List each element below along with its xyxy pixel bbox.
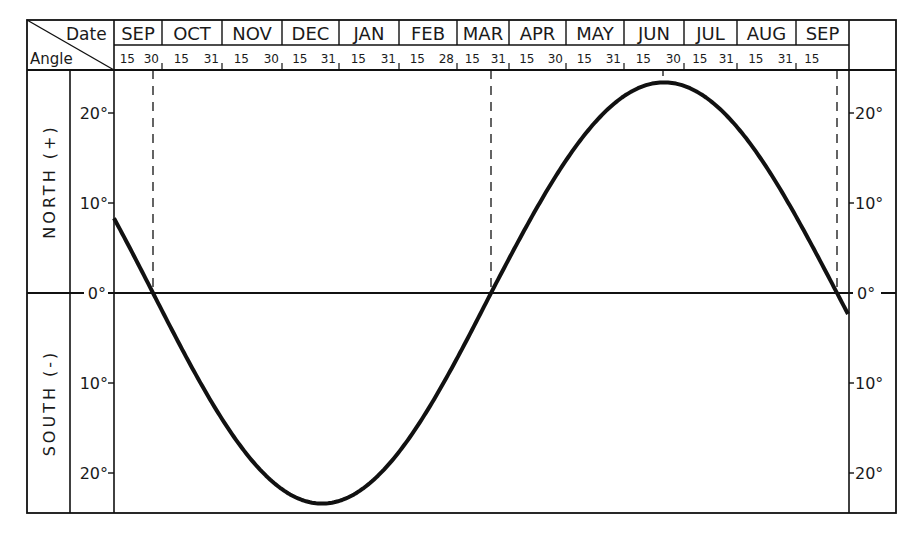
month-label: NOV <box>232 23 272 44</box>
day-tick-label: 15 <box>292 52 307 66</box>
day-tick-label: 30 <box>264 52 279 66</box>
day-tick-label: 31 <box>204 52 219 66</box>
day-tick-label: 31 <box>778 52 793 66</box>
day-tick-label: 15 <box>120 52 135 66</box>
day-tick-label: 28 <box>439 52 454 66</box>
day-tick-label: 15 <box>804 52 819 66</box>
month-label: JUL <box>695 23 725 44</box>
day-tick-label: 30 <box>144 52 159 66</box>
y-tick-label-right: 10° <box>855 194 883 213</box>
day-tick-label: 15 <box>577 52 592 66</box>
month-label: DEC <box>292 23 330 44</box>
day-tick-label: 15 <box>234 52 249 66</box>
y-tick-label-right-zero: 0° <box>857 284 875 303</box>
day-tick-label: 15 <box>692 52 707 66</box>
y-tick-label-left: 20° <box>80 464 108 483</box>
north-label: NORTH (+) <box>40 124 59 238</box>
day-tick-label: 15 <box>519 52 534 66</box>
month-label: SEP <box>121 23 155 44</box>
day-tick-label: 15 <box>465 52 480 66</box>
header-corner-date: Date <box>66 24 107 44</box>
day-tick-label: 31 <box>321 52 336 66</box>
day-tick-label: 30 <box>548 52 563 66</box>
day-tick-label: 15 <box>351 52 366 66</box>
day-tick-label: 30 <box>666 52 681 66</box>
plot-area: 0°0° <box>27 70 896 504</box>
y-tick-label-left: 10° <box>80 194 108 213</box>
day-tick-label: 15 <box>174 52 189 66</box>
chart-frame <box>27 20 896 513</box>
day-tick-label: 31 <box>381 52 396 66</box>
day-tick-label: 31 <box>491 52 506 66</box>
y-tick-label-right: 20° <box>855 104 883 123</box>
day-tick-label: 31 <box>719 52 734 66</box>
header-corner-angle: Angle <box>30 50 73 68</box>
day-tick-label: 15 <box>410 52 425 66</box>
y-tick-label-right: 20° <box>855 464 883 483</box>
declination-chart: DateAngleSEP1530OCT1531NOV1530DEC1531JAN… <box>0 0 914 539</box>
day-tick-label: 15 <box>636 52 651 66</box>
month-label: JAN <box>353 23 385 44</box>
month-label: MAY <box>576 23 614 44</box>
day-tick-label: 15 <box>748 52 763 66</box>
month-label: AUG <box>747 23 786 44</box>
month-label: SEP <box>806 23 840 44</box>
y-tick-label-left-zero: 0° <box>88 284 106 303</box>
outer-border <box>27 20 896 513</box>
y-tick-label-left: 20° <box>80 104 108 123</box>
y-tick-label-left: 10° <box>80 374 108 393</box>
month-label: MAR <box>463 23 503 44</box>
south-label: SOUTH (-) <box>40 350 59 457</box>
month-label: OCT <box>173 23 212 44</box>
y-tick-label-right: 10° <box>855 374 883 393</box>
month-label: FEB <box>411 23 445 44</box>
day-tick-label: 31 <box>606 52 621 66</box>
month-label: JUN <box>637 23 670 44</box>
month-label: APR <box>520 23 556 44</box>
